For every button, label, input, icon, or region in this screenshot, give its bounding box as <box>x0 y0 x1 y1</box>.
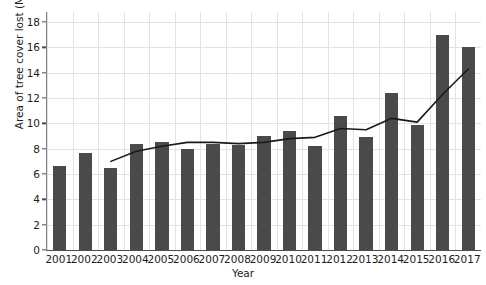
y-tick-label: 10 <box>27 117 40 129</box>
y-tick-mark <box>42 199 46 200</box>
y-tick-mark <box>42 148 46 149</box>
trend-line-path <box>111 69 468 161</box>
x-tick-label-2016: 2016 <box>428 253 455 265</box>
y-tick-label: 2 <box>33 219 40 231</box>
y-tick-label: 8 <box>33 143 40 155</box>
y-tick-mark <box>42 72 46 73</box>
x-tick-label-2013: 2013 <box>352 253 379 265</box>
x-tick-label-2010: 2010 <box>275 253 302 265</box>
x-tick-label-2017: 2017 <box>454 253 481 265</box>
x-tick-label-2008: 2008 <box>224 253 251 265</box>
y-tick-mark <box>42 173 46 174</box>
x-tick-label-2009: 2009 <box>250 253 277 265</box>
x-tick-label-2001: 2001 <box>45 253 72 265</box>
x-axis-label: Year <box>0 267 486 279</box>
plot-area <box>46 12 481 251</box>
trend-line-series <box>47 12 481 250</box>
x-tick-label-2007: 2007 <box>199 253 226 265</box>
y-tick-mark <box>42 249 46 250</box>
y-axis-label: Area of tree cover lost (Mha) <box>13 0 25 149</box>
x-tick-label-2006: 2006 <box>173 253 200 265</box>
x-tick-label-2014: 2014 <box>377 253 404 265</box>
y-tick-label: 12 <box>27 92 40 104</box>
y-tick-label: 14 <box>27 67 40 79</box>
y-tick-mark <box>42 21 46 22</box>
y-tick-label: 0 <box>33 244 40 256</box>
x-tick-label-2012: 2012 <box>326 253 353 265</box>
y-tick-label: 18 <box>27 16 40 28</box>
y-tick-mark <box>42 97 46 98</box>
y-tick-mark <box>42 224 46 225</box>
y-tick-label: 16 <box>27 41 40 53</box>
y-tick-label: 4 <box>33 193 40 205</box>
y-tick-label: 6 <box>33 168 40 180</box>
x-tick-label-2011: 2011 <box>301 253 328 265</box>
y-tick-mark <box>42 47 46 48</box>
y-tick-mark <box>42 123 46 124</box>
x-tick-label-2004: 2004 <box>122 253 149 265</box>
tree-cover-loss-chart: Area of tree cover lost (Mha) 0246810121… <box>0 0 486 285</box>
x-tick-label-2005: 2005 <box>148 253 175 265</box>
x-tick-label-2002: 2002 <box>71 253 98 265</box>
x-tick-label-2003: 2003 <box>96 253 123 265</box>
x-tick-label-2015: 2015 <box>403 253 430 265</box>
